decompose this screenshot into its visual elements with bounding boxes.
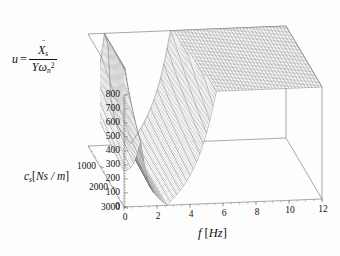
x-tick-label: 12: [316, 204, 330, 214]
y-label-unit: Ns / m: [36, 170, 65, 182]
x-tick-label: 0: [118, 212, 132, 222]
x-tick-label: 8: [250, 207, 264, 217]
x-label-unit: Hz: [209, 226, 223, 240]
z-label-num-sub: s: [45, 49, 48, 58]
y-tick-label: 3000: [92, 202, 120, 212]
z-tick-label: 800: [92, 89, 120, 99]
x-tick-label: 10: [283, 205, 297, 215]
x-tick-label: 6: [217, 208, 231, 218]
z-label-den-sup: 2: [51, 61, 55, 70]
z-tick-label: 300: [92, 159, 120, 169]
surface-mesh: [88, 26, 322, 205]
z-label-equals: =: [20, 52, 27, 67]
figure-canvas: u = ¨Xs Yωn2 cs[Ns / m] f [Hz] 800700600…: [0, 0, 340, 256]
y-label-bracket-close: ]: [65, 170, 69, 182]
surface-plot: [0, 0, 340, 256]
z-label-numerator: ¨Xs: [35, 44, 51, 58]
z-axis-label: u = ¨Xs Yωn2: [12, 44, 57, 74]
y-axis-label: cs[Ns / m]: [24, 170, 69, 184]
z-tick-label: 500: [92, 131, 120, 141]
x-tick-label: 4: [184, 209, 198, 219]
double-dot-accent: ¨: [42, 38, 44, 47]
x-label-symbol: f: [198, 226, 201, 240]
z-label-fraction: ¨Xs Yωn2: [29, 44, 58, 74]
z-label-lhs: u: [12, 52, 18, 67]
x-tick-label: 2: [151, 211, 165, 221]
y-tick-label: 2000: [80, 182, 108, 192]
y-tick-label: 1000: [68, 161, 96, 171]
z-tick-label: 700: [92, 103, 120, 113]
z-tick-label: 600: [92, 117, 120, 127]
z-label-den-omega: ω: [38, 60, 46, 74]
x-label-bracket-close: ]: [223, 226, 227, 240]
z-label-denominator: Yωn2: [29, 61, 58, 75]
z-tick-label: 400: [92, 145, 120, 155]
x-axis-label: f [Hz]: [198, 226, 227, 241]
